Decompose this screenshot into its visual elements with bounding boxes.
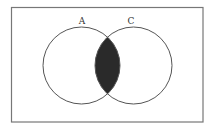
set-c-label: C	[128, 16, 135, 26]
set-a-label: A	[78, 16, 86, 26]
venn-diagram: A C	[0, 0, 213, 127]
